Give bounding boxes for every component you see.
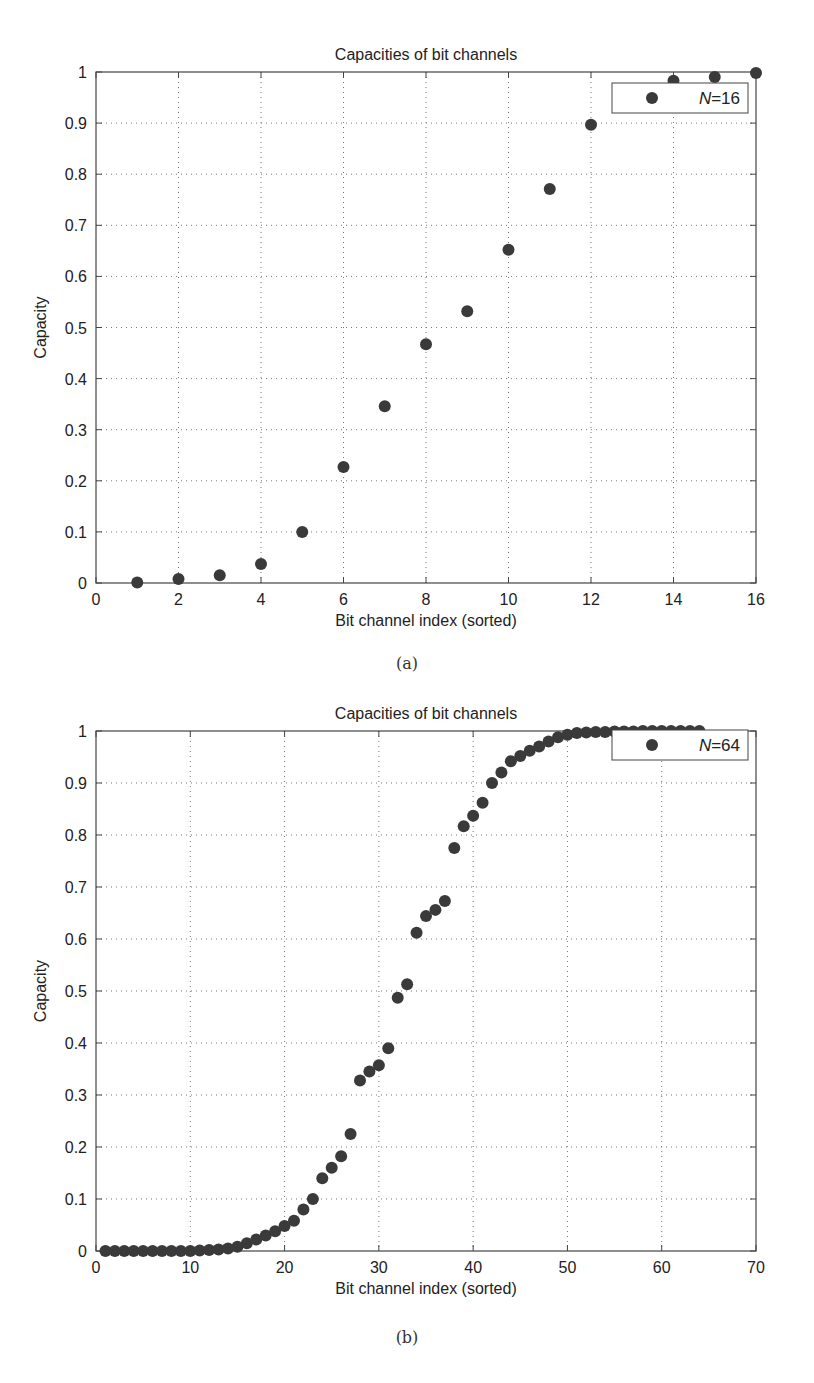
- svg-text:12: 12: [582, 591, 600, 608]
- svg-text:4: 4: [257, 591, 266, 608]
- svg-text:40: 40: [464, 1259, 482, 1276]
- data-point: [486, 777, 498, 789]
- data-point: [439, 895, 451, 907]
- data-point: [467, 810, 479, 822]
- data-point: [297, 1203, 309, 1215]
- svg-text:0.3: 0.3: [65, 1087, 87, 1104]
- svg-text:20: 20: [276, 1259, 294, 1276]
- y-axis-ticks: 00.10.20.30.40.50.60.70.80.91: [65, 64, 756, 592]
- data-point: [354, 1074, 366, 1086]
- y-axis-label: Capacity: [32, 960, 49, 1022]
- svg-text:0.1: 0.1: [65, 524, 87, 541]
- svg-text:0.2: 0.2: [65, 473, 87, 490]
- svg-text:14: 14: [665, 591, 683, 608]
- svg-text:2: 2: [174, 591, 183, 608]
- data-point: [544, 183, 556, 195]
- svg-text:0.5: 0.5: [65, 983, 87, 1000]
- data-point: [411, 927, 423, 939]
- svg-text:0.4: 0.4: [65, 1035, 87, 1052]
- svg-text:0.4: 0.4: [65, 371, 87, 388]
- x-axis-label: Bit channel index (sorted): [335, 1280, 516, 1297]
- data-point: [461, 305, 473, 317]
- data-point: [316, 1172, 328, 1184]
- svg-text:0.7: 0.7: [65, 879, 87, 896]
- svg-text:30: 30: [370, 1259, 388, 1276]
- legend: N=64: [612, 730, 748, 760]
- x-axis-label: Bit channel index (sorted): [335, 612, 516, 629]
- legend-marker-icon: [646, 739, 658, 751]
- figure-b: Capacities of bit channels01020304050607…: [0, 690, 814, 1383]
- chart-title: Capacities of bit channels: [335, 46, 517, 63]
- data-point: [173, 573, 185, 585]
- svg-text:8: 8: [422, 591, 431, 608]
- data-point: [255, 558, 267, 570]
- data-point: [373, 1059, 385, 1071]
- data-point: [382, 1042, 394, 1054]
- data-point: [338, 461, 350, 473]
- svg-text:0.8: 0.8: [65, 166, 87, 183]
- data-point: [420, 338, 432, 350]
- svg-text:0.8: 0.8: [65, 827, 87, 844]
- data-point: [392, 992, 404, 1004]
- svg-text:0: 0: [78, 575, 87, 592]
- svg-text:16: 16: [747, 591, 765, 608]
- svg-text:0.9: 0.9: [65, 775, 87, 792]
- svg-text:0.9: 0.9: [65, 115, 87, 132]
- data-point: [750, 67, 762, 79]
- x-axis-ticks: 010203040506070: [92, 731, 765, 1276]
- data-point: [585, 119, 597, 131]
- svg-text:0: 0: [92, 591, 101, 608]
- data-point: [335, 1150, 347, 1162]
- y-axis-label: Capacity: [32, 296, 49, 358]
- svg-text:0: 0: [92, 1259, 101, 1276]
- data-point: [429, 904, 441, 916]
- data-point: [503, 244, 515, 256]
- data-point: [448, 842, 460, 854]
- svg-text:1: 1: [78, 723, 87, 740]
- svg-text:0.6: 0.6: [65, 268, 87, 285]
- svg-text:60: 60: [653, 1259, 671, 1276]
- grid-lines: [96, 731, 756, 1251]
- svg-text:6: 6: [339, 591, 348, 608]
- data-point: [288, 1215, 300, 1227]
- y-axis-ticks: 00.10.20.30.40.50.60.70.80.91: [65, 723, 756, 1260]
- data-point: [131, 576, 143, 588]
- chart-b: Capacities of bit channels01020304050607…: [0, 690, 814, 1320]
- data-point: [495, 767, 507, 779]
- svg-text:0.2: 0.2: [65, 1139, 87, 1156]
- data-point: [379, 400, 391, 412]
- svg-text:0.3: 0.3: [65, 422, 87, 439]
- svg-text:10: 10: [500, 591, 518, 608]
- svg-text:10: 10: [181, 1259, 199, 1276]
- data-point: [458, 820, 470, 832]
- svg-text:0.7: 0.7: [65, 217, 87, 234]
- caption-a: (a): [0, 654, 814, 673]
- data-point: [214, 569, 226, 581]
- svg-text:70: 70: [747, 1259, 765, 1276]
- data-point: [477, 797, 489, 809]
- svg-text:50: 50: [559, 1259, 577, 1276]
- data-point: [345, 1128, 357, 1140]
- svg-text:0.6: 0.6: [65, 931, 87, 948]
- figure-a: Capacities of bit channels02468101214160…: [0, 0, 814, 690]
- data-point: [401, 978, 413, 990]
- legend-label: N=16: [699, 89, 740, 108]
- grid-lines: [96, 72, 756, 583]
- data-point: [326, 1162, 338, 1174]
- svg-text:0.1: 0.1: [65, 1191, 87, 1208]
- legend: N=16: [612, 83, 748, 113]
- data-point: [709, 71, 721, 83]
- svg-text:0.5: 0.5: [65, 320, 87, 337]
- legend-marker-icon: [646, 92, 658, 104]
- chart-title: Capacities of bit channels: [335, 705, 517, 722]
- svg-text:1: 1: [78, 64, 87, 81]
- data-point: [296, 526, 308, 538]
- data-point: [307, 1193, 319, 1205]
- chart-a: Capacities of bit channels02468101214160…: [0, 0, 814, 650]
- caption-b: (b): [0, 1328, 814, 1347]
- legend-label: N=64: [699, 736, 740, 755]
- svg-text:0: 0: [78, 1243, 87, 1260]
